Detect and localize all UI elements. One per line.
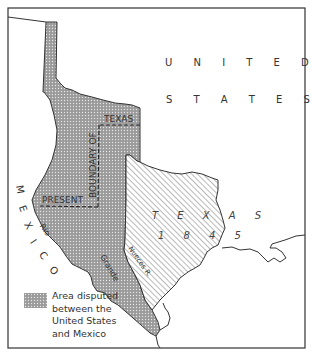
label-boundary-of: BOUNDARY OF [88, 132, 98, 198]
label-united: U N I T E D [165, 57, 312, 68]
legend-line-3: United States [52, 315, 118, 328]
legend-line-2: between the [52, 303, 118, 316]
label-states: S T A T E S [166, 94, 312, 105]
legend-line-4: and Mexico [52, 328, 118, 341]
label-present: PRESENT [42, 195, 83, 205]
legend-text: Area disputed between the United States … [52, 290, 118, 340]
legend-swatch-disputed [24, 293, 47, 308]
label-texas-boundary: TEXAS [104, 114, 133, 124]
legend-line-1: Area disputed [52, 290, 118, 303]
label-texas-1845-year: 1 8 4 5 [158, 230, 249, 241]
label-texas-1845-name: T E X A S [152, 210, 269, 221]
